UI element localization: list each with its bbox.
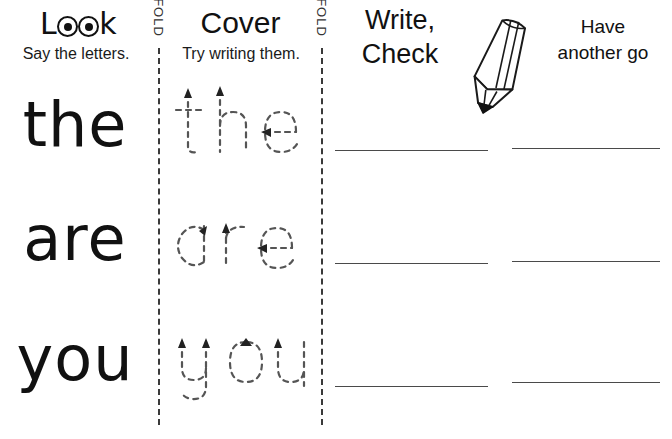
traced-word-the [168,82,314,174]
column-title-look: Lk [0,6,157,41]
eye-icon [57,16,78,37]
pencil-icon [462,12,538,116]
column-title-write-line1: Write, [365,5,435,35]
fold-dashed-line [321,48,323,425]
traced-word-you [168,316,314,408]
column-subtitle-look: Say the letters. [0,45,152,63]
fold-label: FOLD [314,0,329,37]
fold-divider-2: FOLD [311,0,331,439]
word-are: are [0,202,150,275]
word-the: the [0,88,150,161]
column-subtitle-cover: Try writing them. [168,45,314,63]
writing-line-row3-write [335,386,488,387]
column-title-have-line1: Have [581,16,625,37]
column-title-have-another-go: Have another go [534,14,672,65]
column-title-cover: Cover [168,6,313,40]
writing-line-row2-write [335,263,488,264]
fold-dashed-line [158,48,160,425]
writing-line-row2-again [512,261,660,262]
writing-line-row1-again [512,148,660,149]
fold-divider-1: FOLD [148,0,168,439]
column-title-have-line2: another go [558,42,649,63]
writing-line-row1-write [335,150,488,151]
worksheet-page: Lk Say the letters. Cover Try writing th… [0,0,672,439]
eye-icon [78,16,99,37]
column-title-write-line2: Check [340,38,460,72]
word-you: you [0,322,150,395]
fold-label: FOLD [151,0,166,37]
traced-word-are [168,196,314,288]
column-title-write: Write, Check [340,4,460,72]
writing-line-row3-again [512,382,660,383]
